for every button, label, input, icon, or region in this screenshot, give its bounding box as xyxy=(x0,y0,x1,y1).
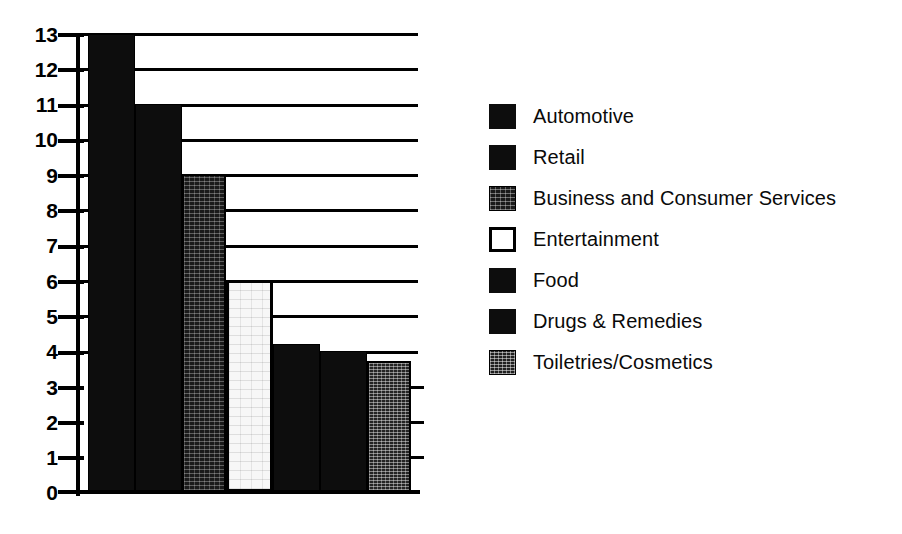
y-tick-label-2: 2 xyxy=(28,412,58,433)
legend-swatch-automotive-icon xyxy=(489,104,516,129)
y-tick-label-13: 13 xyxy=(28,24,58,45)
y-tick-label-11: 11 xyxy=(28,94,58,115)
legend-item-food: Food xyxy=(489,260,889,301)
bar-drugs-and-remedies xyxy=(320,351,367,492)
legend-item-toiletries-cosmetics: Toiletries/Cosmetics xyxy=(489,342,889,383)
y-tick-mark-3 xyxy=(58,386,84,390)
bar-retail xyxy=(135,104,182,492)
y-tick-label-12: 12 xyxy=(28,59,58,80)
y-tick-label-8: 8 xyxy=(28,200,58,221)
y-tick-label-0: 0 xyxy=(28,482,58,503)
y-axis-tick-labels: 13 12 11 10 9 8 7 6 5 4 3 2 1 0 xyxy=(16,0,58,534)
bar-toiletries-cosmetics xyxy=(367,361,411,492)
y-tick-label-7: 7 xyxy=(28,235,58,256)
legend-item-automotive: Automotive xyxy=(489,96,889,137)
legend-item-entertainment: Entertainment xyxy=(489,219,889,260)
legend-item-drugs-and-remedies: Drugs & Remedies xyxy=(489,301,889,342)
y-tick-mark-1 xyxy=(58,456,84,460)
legend-swatch-retail-icon xyxy=(489,145,516,170)
legend-label-drugs-and-remedies: Drugs & Remedies xyxy=(533,310,702,333)
chart-legend: Automotive Retail Business and Consumer … xyxy=(489,96,889,383)
legend-label-automotive: Automotive xyxy=(533,105,634,128)
legend-label-entertainment: Entertainment xyxy=(533,228,659,251)
y-axis-line xyxy=(76,33,80,496)
legend-label-toiletries-cosmetics: Toiletries/Cosmetics xyxy=(533,351,713,374)
bar-business-and-consumer-services xyxy=(182,174,226,492)
chart-page: 13 12 11 10 9 8 7 6 5 4 3 2 1 0 xyxy=(0,0,902,534)
y-tick-label-5: 5 xyxy=(28,306,58,327)
y-tick-label-6: 6 xyxy=(28,271,58,292)
legend-swatch-drugs-and-remedies-icon xyxy=(489,309,516,334)
bar-food xyxy=(273,344,320,492)
y-tick-label-1: 1 xyxy=(28,447,58,468)
legend-item-business-and-consumer-services: Business and Consumer Services xyxy=(489,178,889,219)
legend-swatch-toiletries-cosmetics-icon xyxy=(489,350,516,375)
y-tick-label-10: 10 xyxy=(28,129,58,150)
legend-swatch-food-icon xyxy=(489,268,516,293)
y-tick-mark-2 xyxy=(58,421,84,425)
y-tick-label-9: 9 xyxy=(28,165,58,186)
bar-entertainment xyxy=(226,280,273,492)
legend-label-food: Food xyxy=(533,269,579,292)
legend-swatch-business-and-consumer-services-icon xyxy=(489,186,516,211)
y-tick-label-4: 4 xyxy=(28,341,58,362)
legend-label-business-and-consumer-services: Business and Consumer Services xyxy=(533,187,836,210)
legend-label-retail: Retail xyxy=(533,146,585,169)
legend-swatch-entertainment-icon xyxy=(489,227,516,252)
legend-item-retail: Retail xyxy=(489,137,889,178)
y-tick-label-3: 3 xyxy=(28,377,58,398)
x-axis-baseline xyxy=(60,490,420,494)
bar-chart: 13 12 11 10 9 8 7 6 5 4 3 2 1 0 xyxy=(0,0,460,534)
bar-automotive xyxy=(88,34,135,492)
